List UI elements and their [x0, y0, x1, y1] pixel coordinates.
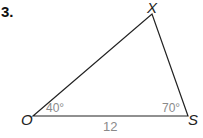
vertex-label-s: S: [188, 111, 198, 128]
side-label-os: 12: [103, 119, 117, 134]
vertex-label-x: X: [146, 0, 158, 16]
angle-label-s: 70°: [162, 101, 180, 115]
vertex-label-o: O: [21, 111, 33, 128]
problem-number: 3.: [1, 3, 14, 20]
triangle-diagram: 3. X O S 40° 70° 12: [0, 0, 203, 138]
angle-label-o: 40°: [46, 101, 64, 115]
